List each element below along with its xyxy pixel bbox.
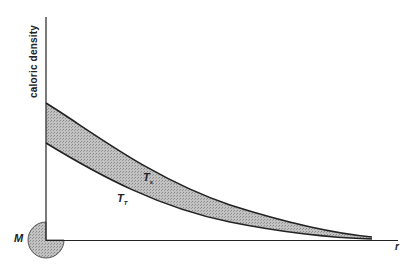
upper-curve-label: Ts [143,171,153,185]
upper-curve-label-sub: s [150,179,153,185]
y-axis-label: caloric density [28,18,42,98]
lower-curve-label-main: T [117,192,124,204]
y-axis-label-text: caloric density [28,25,39,98]
mass-label: M [14,232,23,244]
diagram-canvas [0,0,418,275]
lower-curve-label-sub: T [124,200,128,206]
upper-curve-label-main: T [143,171,150,183]
lower-curve-label: TT [117,192,127,206]
x-axis-label: r [395,241,399,252]
